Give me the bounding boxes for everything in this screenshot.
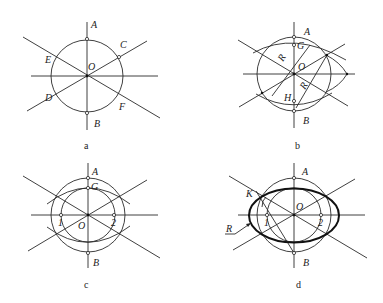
upper-arc bbox=[47, 188, 130, 204]
label-2: 2 bbox=[111, 217, 116, 228]
label-b: B bbox=[94, 118, 100, 129]
label-f: F bbox=[118, 101, 126, 112]
label-b: B bbox=[303, 115, 309, 126]
diagonal-1 bbox=[238, 40, 348, 106]
lower-left-point bbox=[261, 92, 263, 94]
panel-d: A B K O 1 2 R d bbox=[225, 163, 367, 290]
label-g: G bbox=[297, 40, 304, 51]
center-o bbox=[87, 214, 90, 217]
panel-a: A B C D E F O a bbox=[23, 19, 160, 151]
label-b: B bbox=[93, 257, 99, 268]
point-c bbox=[117, 55, 120, 58]
caption-d: d bbox=[296, 279, 301, 290]
point-a bbox=[292, 35, 295, 38]
upper-right-point bbox=[326, 54, 328, 56]
label-a: A bbox=[91, 166, 99, 177]
point-g bbox=[292, 43, 295, 46]
label-1: 1 bbox=[58, 217, 63, 228]
lower-arc bbox=[47, 226, 130, 242]
point-g bbox=[86, 186, 89, 189]
label-1: 1 bbox=[264, 217, 269, 228]
label-b: B bbox=[303, 257, 309, 268]
label-d: D bbox=[44, 92, 53, 103]
label-r-left: R bbox=[275, 52, 288, 64]
point-b bbox=[86, 251, 89, 254]
label-a: A bbox=[90, 19, 98, 30]
label-o: O bbox=[296, 201, 303, 212]
center-o bbox=[293, 214, 296, 217]
label-a: A bbox=[303, 26, 311, 37]
diagonal-ef bbox=[23, 37, 160, 118]
point-a bbox=[86, 176, 89, 179]
label-g: G bbox=[91, 181, 98, 192]
label-a: A bbox=[301, 166, 309, 177]
point-b bbox=[85, 111, 88, 114]
point-b bbox=[292, 251, 295, 254]
caption-a: a bbox=[84, 140, 89, 151]
label-o: O bbox=[78, 220, 85, 231]
label-e: E bbox=[44, 54, 51, 65]
diagonal-2 bbox=[239, 44, 345, 107]
label-c: C bbox=[120, 39, 127, 50]
label-k: K bbox=[245, 188, 254, 199]
caption-c: c bbox=[84, 279, 89, 290]
ellipse-construction-figure: A B C D E F O a A G H B O R R bbox=[0, 0, 383, 303]
point-a bbox=[85, 37, 88, 40]
label-r: R bbox=[225, 223, 232, 234]
line-k-b bbox=[256, 191, 294, 253]
label-2: 2 bbox=[318, 217, 323, 228]
panel-c: A G B O 1 2 c bbox=[23, 163, 160, 290]
right-point bbox=[346, 73, 348, 75]
point-a bbox=[292, 176, 295, 179]
point-b bbox=[292, 109, 295, 112]
caption-b: b bbox=[295, 140, 300, 151]
label-o: O bbox=[298, 61, 305, 72]
panel-b: A G H B O R R b bbox=[238, 22, 355, 151]
center-o bbox=[293, 73, 296, 76]
label-h: H bbox=[283, 92, 292, 103]
center-o bbox=[86, 75, 89, 78]
label-o: O bbox=[88, 61, 95, 72]
point-h bbox=[292, 99, 295, 102]
